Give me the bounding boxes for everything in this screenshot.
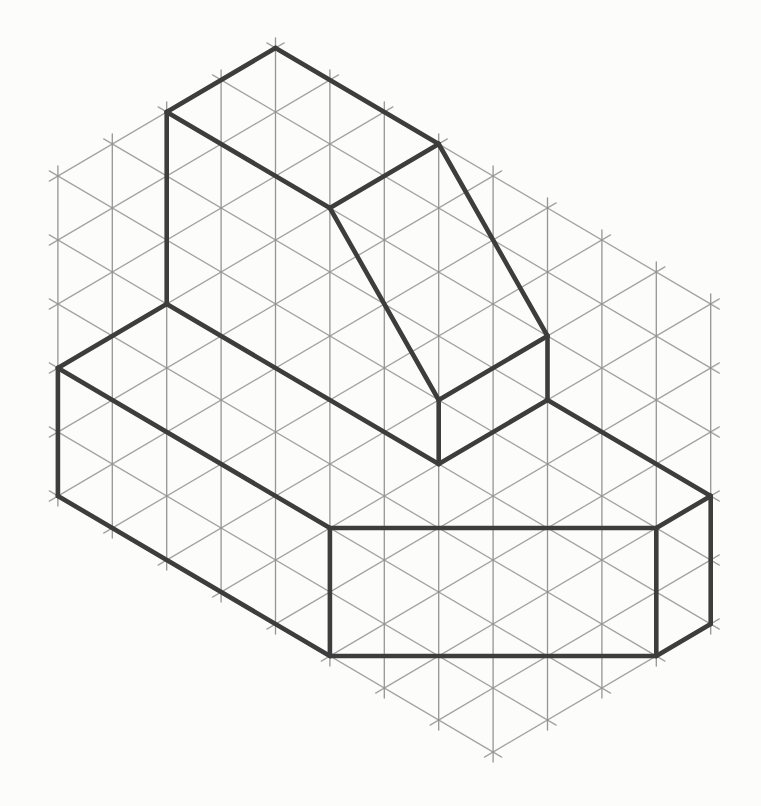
- scanned-page: [0, 0, 761, 806]
- isometric-grid-figure: [0, 0, 761, 806]
